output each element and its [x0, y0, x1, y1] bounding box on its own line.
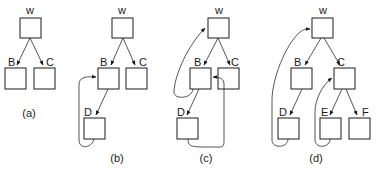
- edge-w-b: [204, 38, 218, 65]
- node-d: [177, 118, 198, 139]
- node-label-w: w: [25, 4, 34, 16]
- node-d: [84, 118, 105, 139]
- panel-caption-d: (d): [309, 152, 322, 164]
- node-d: [278, 118, 299, 139]
- node-label-b: B: [8, 56, 15, 68]
- edge-b-d: [96, 89, 108, 115]
- edge-b-d: [290, 89, 302, 115]
- node-label-d: D: [279, 106, 287, 118]
- node-label-w: w: [117, 4, 126, 16]
- node-label-c: C: [46, 56, 54, 68]
- panel-d: w B C D E F (d): [272, 4, 370, 164]
- edge-c-f: [346, 89, 357, 115]
- panel-caption-a: (a): [22, 107, 35, 119]
- node-label-c: C: [231, 56, 239, 68]
- node-c: [126, 68, 147, 89]
- edge-w-c: [123, 38, 135, 65]
- node-label-b: B: [194, 56, 201, 68]
- edge-w-b: [17, 38, 30, 65]
- edge-b-d: [187, 89, 199, 115]
- edge-c-e: [330, 89, 342, 115]
- node-c: [334, 68, 355, 89]
- node-label-w: w: [318, 4, 327, 16]
- panel-a: w B C (a): [5, 4, 55, 119]
- node-c: [34, 68, 55, 89]
- node-label-b: B: [100, 56, 107, 68]
- edge-w-c: [30, 38, 43, 65]
- node-label-w: w: [214, 4, 223, 16]
- edge-w-c: [324, 38, 340, 65]
- node-label-f: F: [362, 106, 369, 118]
- node-label-e: E: [321, 106, 328, 118]
- node-f: [349, 118, 370, 139]
- node-w: [20, 18, 41, 38]
- edge-w-b: [111, 38, 123, 65]
- edge-w-b: [305, 38, 321, 65]
- node-label-b: B: [294, 56, 301, 68]
- node-b: [190, 68, 211, 89]
- node-b: [5, 68, 26, 89]
- node-label-d: D: [177, 106, 185, 118]
- node-b: [291, 68, 312, 89]
- node-e: [320, 118, 341, 139]
- panel-caption-c: (c): [200, 152, 213, 164]
- edge-w-c: [218, 38, 230, 65]
- node-b: [98, 68, 119, 89]
- node-w: [208, 18, 229, 38]
- node-w: [312, 18, 333, 38]
- tree-diagram: w B C (a) w B C D (b) w B C D: [0, 0, 378, 176]
- panel-caption-b: (b): [110, 152, 123, 164]
- panel-c: w B C D (c): [174, 4, 239, 164]
- node-label-c: C: [139, 56, 147, 68]
- node-w: [112, 18, 133, 38]
- node-label-d: D: [84, 106, 92, 118]
- panel-b: w B C D (b): [79, 4, 147, 164]
